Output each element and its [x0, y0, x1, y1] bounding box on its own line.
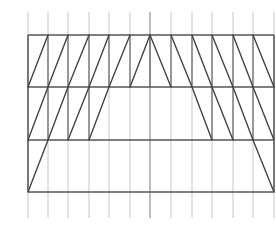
- truss-diagram: [0, 0, 276, 231]
- diagonal-member: [68, 87, 89, 140]
- diagonal-member: [192, 87, 212, 140]
- diagonal-member: [28, 35, 48, 87]
- diagonal-member: [233, 35, 253, 87]
- diagonal-member: [89, 87, 109, 140]
- diagonal-member: [89, 35, 109, 87]
- diagonal-member: [150, 35, 171, 87]
- diagonal-member: [212, 87, 233, 140]
- diagonal-member: [212, 35, 233, 87]
- diagonal-member: [109, 35, 130, 87]
- diagonal-member: [48, 35, 68, 87]
- diagonal-member: [171, 35, 192, 87]
- diagonal-member: [130, 35, 150, 87]
- diagonal-member: [28, 87, 48, 140]
- diagonal-member: [253, 35, 274, 87]
- diagonal-member: [253, 140, 274, 192]
- diagonal-member: [68, 35, 89, 87]
- diagonal-member: [192, 35, 212, 87]
- diagonal-member: [28, 140, 48, 192]
- diagonal-member: [233, 87, 253, 140]
- diagonal-member: [253, 87, 274, 140]
- diagonal-member: [48, 87, 68, 140]
